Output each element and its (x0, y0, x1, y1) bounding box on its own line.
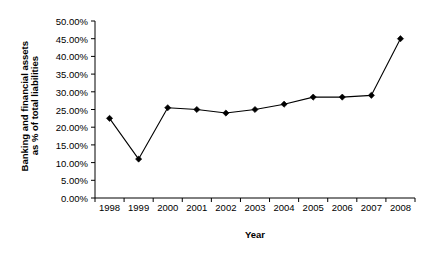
data-point-marker (310, 94, 316, 100)
data-point-marker (281, 101, 287, 107)
x-axis-tick-label: 2005 (303, 202, 324, 213)
data-point-marker (223, 110, 229, 116)
data-series-line (110, 39, 401, 159)
data-point-marker (397, 36, 403, 42)
y-axis-title-line-2: as % of total liabilities (30, 56, 40, 155)
x-axis-tick-label: 2002 (215, 202, 236, 213)
y-axis-tick-label: 30.00% (56, 86, 88, 97)
y-axis-tick-label: 0.00% (61, 193, 88, 204)
y-axis-tick-label: 5.00% (61, 175, 88, 186)
data-point-marker (368, 92, 374, 98)
x-axis-tick-label: 2001 (186, 202, 207, 213)
data-point-marker (339, 94, 345, 100)
y-axis-tick-label: 15.00% (56, 139, 88, 150)
x-axis-title: Year (95, 229, 415, 240)
y-axis-tick-label: 45.00% (56, 33, 88, 44)
y-axis-tick-labels: 0.00%5.00%10.00%15.00%20.00%25.00%30.00%… (48, 0, 92, 256)
x-axis-tick-label: 2004 (274, 202, 295, 213)
x-axis-tick-label: 2008 (390, 202, 411, 213)
line-chart-svg (95, 21, 415, 198)
y-axis-tick-label: 50.00% (56, 16, 88, 27)
data-point-marker (194, 106, 200, 112)
y-axis-title: Banking and financial assets as % of tot… (10, 0, 50, 212)
x-axis-tick-label: 1999 (128, 202, 149, 213)
y-axis-tick-label: 20.00% (56, 122, 88, 133)
chart-container: Banking and financial assets as % of tot… (0, 0, 434, 256)
y-axis-tick-label: 40.00% (56, 51, 88, 62)
x-axis-tick-label: 2000 (157, 202, 178, 213)
y-axis-tick-label: 25.00% (56, 104, 88, 115)
data-point-marker (165, 105, 171, 111)
x-axis-tick-label: 1998 (99, 202, 120, 213)
y-axis-tick-label: 10.00% (56, 157, 88, 168)
x-axis-tick-labels: 1998199920002001200220032004200520062007… (95, 202, 415, 220)
plot-area (95, 21, 415, 198)
x-axis-tick-label: 2006 (332, 202, 353, 213)
data-point-marker (252, 106, 258, 112)
x-axis-tick-label: 2003 (244, 202, 265, 213)
x-axis-tick-label: 2007 (361, 202, 382, 213)
y-axis-tick-label: 35.00% (56, 69, 88, 80)
